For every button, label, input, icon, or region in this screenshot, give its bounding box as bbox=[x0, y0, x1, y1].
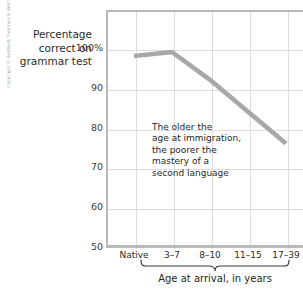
y-axis-title-line-1: Percentage bbox=[8, 28, 92, 42]
annotation-line-2: age at immigration, bbox=[152, 133, 241, 144]
chart-annotation: The older the age at immigration, the po… bbox=[152, 122, 241, 179]
x-axis-title: Age at arrival, in years bbox=[139, 273, 291, 284]
figure-canvas: Copyright © Bedford, Freeman & Worth — A… bbox=[0, 0, 303, 291]
annotation-line-4: mastery of a bbox=[152, 156, 241, 167]
y-axis-tick-label: 50 bbox=[0, 247, 103, 258]
annotation-line-3: the poorer the bbox=[152, 145, 241, 156]
y-axis-tick-label: 60 bbox=[0, 207, 103, 218]
y-axis-tick-label: 90 bbox=[0, 88, 103, 99]
annotation-line-1: The older the bbox=[152, 122, 241, 133]
y-axis-tick-label: 100% bbox=[0, 48, 103, 59]
annotation-line-5: second language bbox=[152, 168, 241, 179]
y-axis-tick-label: 80 bbox=[0, 128, 103, 139]
x-axis-brace bbox=[139, 259, 291, 272]
y-axis-tick-label: 70 bbox=[0, 167, 103, 178]
